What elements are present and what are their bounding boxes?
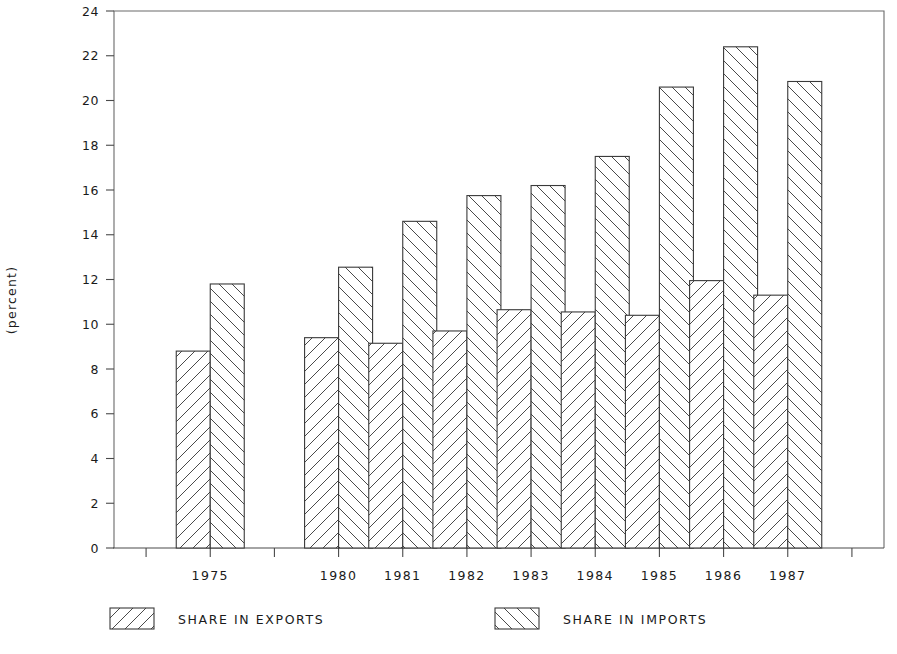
- y-tick-label: 6: [90, 406, 99, 421]
- x-tick-label: 1983: [512, 568, 549, 583]
- bar-share-in-imports: [339, 267, 373, 548]
- legend-label-exports: SHARE IN EXPORTS: [178, 612, 324, 627]
- y-tick-label: 20: [82, 93, 99, 108]
- bar-share-in-exports: [625, 315, 659, 548]
- bar-share-in-exports: [754, 295, 788, 548]
- x-tick-label: 1975: [192, 568, 229, 583]
- bar-share-in-imports: [788, 81, 822, 548]
- y-tick-label: 10: [82, 317, 99, 332]
- bar-share-in-exports: [176, 351, 210, 548]
- y-tick-label: 8: [90, 362, 99, 377]
- x-tick-label: 1986: [705, 568, 742, 583]
- bar-chart-figure: 024681012141618202224 197519801981198219…: [0, 0, 897, 654]
- bar-share-in-imports: [659, 87, 693, 548]
- bar-share-in-imports: [724, 47, 758, 548]
- y-tick-label: 0: [90, 541, 99, 556]
- x-tick-label: 1987: [769, 568, 806, 583]
- bar-share-in-exports: [497, 310, 531, 548]
- legend-swatch-exports: [110, 608, 154, 629]
- bar-share-in-imports: [210, 284, 244, 548]
- bar-share-in-exports: [433, 331, 467, 548]
- bar-share-in-exports: [369, 343, 403, 548]
- bar-share-in-imports: [595, 156, 629, 548]
- legend-swatch-imports: [495, 608, 539, 629]
- y-tick-label: 14: [82, 227, 99, 242]
- bar-share-in-exports: [305, 338, 339, 548]
- y-tick-label: 16: [82, 183, 99, 198]
- y-tick-label: 12: [82, 272, 99, 287]
- y-axis-label: (percent): [4, 266, 19, 334]
- bar-share-in-imports: [403, 221, 437, 548]
- y-tick-label: 2: [90, 496, 99, 511]
- bar-share-in-exports: [690, 281, 724, 548]
- bar-share-in-imports: [531, 186, 565, 548]
- x-tick-label: 1984: [577, 568, 614, 583]
- x-tick-label: 1982: [448, 568, 485, 583]
- y-tick-label: 4: [90, 451, 99, 466]
- y-tick-label: 24: [82, 4, 99, 19]
- chart-svg: 024681012141618202224 197519801981198219…: [0, 0, 897, 654]
- bar-share-in-imports: [467, 196, 501, 548]
- x-tick-label: 1985: [641, 568, 678, 583]
- legend-label-imports: SHARE IN IMPORTS: [563, 612, 707, 627]
- y-tick-label: 18: [82, 138, 99, 153]
- y-tick-label: 22: [82, 48, 99, 63]
- bar-share-in-exports: [561, 312, 595, 548]
- x-tick-label: 1981: [384, 568, 421, 583]
- x-tick-label: 1980: [320, 568, 357, 583]
